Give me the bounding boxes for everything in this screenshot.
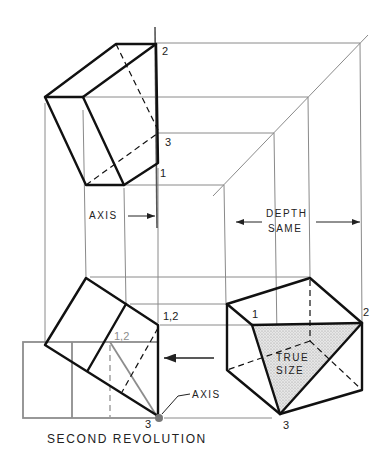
- side-point-3-label: 3: [283, 419, 289, 431]
- axis-point-dot: [155, 414, 163, 422]
- figure-caption: SECOND REVOLUTION: [47, 432, 207, 446]
- true-size-face: [252, 323, 362, 414]
- depth-label-line1: DEPTH: [266, 208, 307, 219]
- top-point-2-label: 2: [162, 45, 168, 57]
- true-size-line1: TRUE: [276, 352, 309, 363]
- front-axis-label: AXIS: [192, 389, 221, 400]
- depth-label-line2: SAME: [268, 223, 302, 234]
- original-position-outline: [23, 342, 158, 418]
- top-point-3-label: 3: [165, 136, 171, 148]
- true-size-line2: SIZE: [276, 365, 304, 376]
- front-point-12-gray-label: 1,2: [114, 330, 129, 342]
- front-point-3-label: 3: [145, 418, 151, 430]
- side-point-2-label: 2: [363, 306, 369, 318]
- front-view: 1,2 1,2 3 AXIS: [23, 278, 221, 430]
- depth-dimension: DEPTH SAME: [236, 208, 360, 234]
- top-view: 2 3 1 AXIS: [45, 27, 171, 228]
- side-view: 1 2 3 TRUE SIZE: [227, 278, 369, 431]
- revolution-diagram: 2 3 1 AXIS DEPTH SAME 1,2 1,2 3 AXIS: [0, 0, 390, 468]
- front-point-12-label: 1,2: [163, 310, 178, 322]
- side-point-1-label: 1: [252, 308, 258, 320]
- top-point-1-label: 1: [160, 167, 166, 179]
- top-axis-label: AXIS: [89, 210, 118, 221]
